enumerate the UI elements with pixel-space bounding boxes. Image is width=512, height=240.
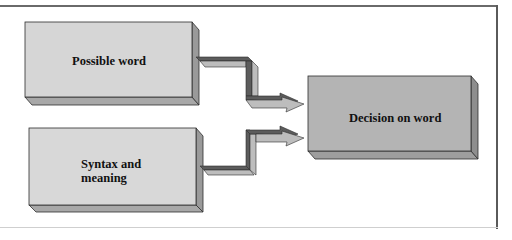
arrow-syntax-to-decision (200, 126, 304, 175)
label-possible-word: Possible word (72, 54, 146, 68)
label-syntax-and-meaning-line2: meaning (81, 171, 127, 185)
label-syntax-and-meaning-line1: Syntax and (81, 157, 141, 171)
label-decision-on-word: Decision on word (349, 111, 441, 125)
arrow-possible-to-decision (196, 57, 304, 112)
